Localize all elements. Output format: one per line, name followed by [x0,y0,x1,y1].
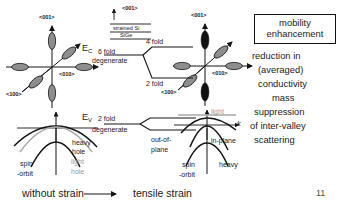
figure-canvas: <001> strained Si SiGe <001> <010> <100>… [0,0,341,211]
valence-band-edge-label: EV [82,113,92,123]
conduction-degenerate-label: degenerate [92,57,127,64]
stack-bottom-layer-label: SiGe [120,33,132,39]
note-line-0: reduction in [252,51,300,60]
unstrained-heavy-hole-line1: heavy [72,139,91,146]
stack-top-layer-label: strained Si [113,26,139,32]
strained-axis-010: <010> [212,71,227,77]
strained-axis-001: <001> [191,13,206,19]
strained-spin-orbit-line1: spin [182,161,195,168]
strained-heavy-label: heavy [219,161,238,168]
unstrained-heavy-hole-line2: hole [72,148,85,155]
footer-without-strain-label: without strain [22,188,84,199]
page-number: 11 [316,189,325,198]
stack-direction-label: <001> [122,6,137,12]
note-line-5: of inter-valley [250,121,306,130]
unstrained-axis-100: <100> [6,92,21,98]
strained-out-of-plane-line1: out-of- [151,136,171,143]
unstrained-spin-orbit-line1: spin [20,160,33,167]
note-line-6: scattering [254,135,295,144]
conduction-6fold-label: 6 fold [98,48,115,55]
mobility-enhancement-box: mobility enhancement [254,14,336,44]
unstrained-axis-001: <001> [39,15,54,21]
note-line-1: (averaged) [258,65,303,74]
unstrained-light-hole-line1: light [71,158,84,165]
note-line-2: conductivity [258,79,307,88]
ev-subscript: V [88,116,92,123]
valence-2fold-label: 2 fold [98,115,115,122]
unstrained-axis-010: <010> [59,72,74,78]
strained-axis-100: <100> [161,90,176,96]
valence-degenerate-label: degenerate [92,126,127,133]
unstrained-spin-orbit-line2: -orbit [17,170,33,177]
unstrained-light-hole-line2: hole [71,168,84,175]
note-line-3: mass [272,93,294,102]
conduction-4fold-label: 4 fold [146,38,163,45]
note-line-4: suppression [254,107,305,116]
ec-subscript: C [88,47,92,54]
strained-in-plane-label: in-plane [211,137,236,144]
conduction-band-edge-label: EC [82,44,92,54]
k-axis-label: k [237,120,241,127]
strained-valley-star [173,24,252,106]
conduction-2fold-label: 2 fold [146,80,163,87]
strained-light-label: light [211,108,224,115]
footer-tensile-strain-label: tensile strain [133,188,192,199]
strained-out-of-plane-line2: plane [151,146,168,153]
mobility-title-line2: enhancement [267,29,324,40]
strained-spin-orbit-line2: -orbit [179,171,195,178]
